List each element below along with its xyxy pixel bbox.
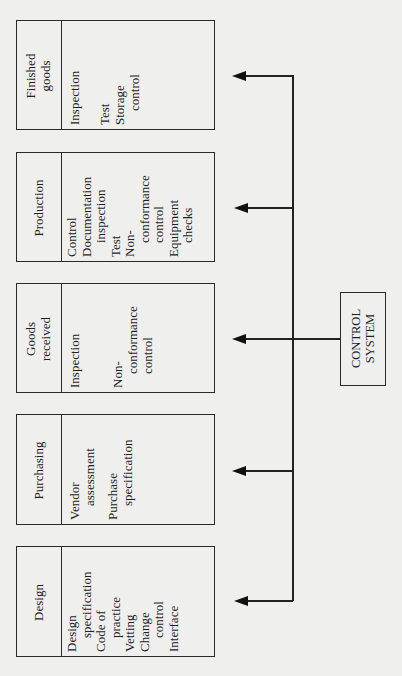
list-item: practice xyxy=(109,547,124,652)
arrow-line-finished-goods xyxy=(238,75,293,77)
list-item: Documentation xyxy=(80,153,95,257)
list-item: checks xyxy=(181,153,196,257)
box-title: goods xyxy=(38,21,53,131)
list-item: conformance xyxy=(138,153,153,257)
list-item: Inspection xyxy=(67,284,82,388)
box-items: Control Documentation inspection Test No… xyxy=(61,153,214,261)
list-item: Non- xyxy=(110,284,125,388)
list-item: inspection xyxy=(94,153,109,257)
box-title: Purchasing xyxy=(31,415,46,526)
box-items: Inspection Non- conformance control xyxy=(61,284,214,392)
box-header: Purchasing xyxy=(17,415,62,524)
control-label: SYSTEM xyxy=(363,293,377,384)
box-items: Vendor assessment Purchase specification xyxy=(61,415,214,524)
list-item: Interface xyxy=(167,547,182,652)
box-items: Inspection Test Storage control xyxy=(61,21,214,129)
arrowhead-icon xyxy=(232,334,246,344)
box-title: Goods xyxy=(23,284,38,394)
list-item: specification xyxy=(80,547,95,652)
list-item: control xyxy=(127,21,142,125)
list-item: control xyxy=(152,547,167,652)
list-item: Test xyxy=(109,153,124,257)
box-header: Design xyxy=(17,547,62,656)
box-items: Design specification Code of practice Ve… xyxy=(61,547,214,656)
list-item: conformance xyxy=(125,284,140,388)
box-header: Goods received xyxy=(17,284,62,392)
list-item: Control xyxy=(65,153,80,257)
box-header: Finished goods xyxy=(17,21,62,129)
arrowhead-icon xyxy=(232,71,246,81)
box-design: Design Design specification Code of prac… xyxy=(16,546,215,657)
box-purchasing: Purchasing Vendor assessment Purchase sp… xyxy=(16,414,215,525)
list-item: control xyxy=(152,153,167,257)
arrowhead-icon xyxy=(234,203,248,213)
box-production: Production Control Documentation inspect… xyxy=(16,152,215,262)
list-item: Equipment xyxy=(167,153,182,257)
arrow-line-goods-received xyxy=(238,338,341,340)
arrowhead-icon xyxy=(234,596,248,606)
list-item: control xyxy=(140,284,155,388)
list-item: Non- xyxy=(123,153,138,257)
list-item: Vendor xyxy=(67,415,82,520)
box-title: Production xyxy=(31,153,46,263)
box-title: Finished xyxy=(23,21,38,131)
list-item: Code of xyxy=(94,547,109,652)
list-item: assessment xyxy=(82,415,97,520)
box-goods-received: Goods received Inspection Non- conforman… xyxy=(16,283,215,393)
list-item: Design xyxy=(65,547,80,652)
arrow-line-purchasing xyxy=(238,470,293,472)
arrowhead-icon xyxy=(232,466,246,476)
control-system-box: CONTROL SYSTEM xyxy=(340,292,386,386)
list-item: Change xyxy=(138,547,153,652)
list-item: Purchase xyxy=(105,415,120,520)
list-item: Inspection xyxy=(67,21,82,125)
box-title: Design xyxy=(31,547,46,658)
box-finished-goods: Finished goods Inspection Test Storage c… xyxy=(16,20,215,130)
list-item: Storage xyxy=(112,21,127,125)
control-label: CONTROL xyxy=(349,293,363,384)
list-item: Test xyxy=(97,21,112,125)
list-item: Vetting xyxy=(123,547,138,652)
box-header: Production xyxy=(17,153,62,261)
list-item: specification xyxy=(120,415,135,520)
box-title: received xyxy=(38,284,53,394)
